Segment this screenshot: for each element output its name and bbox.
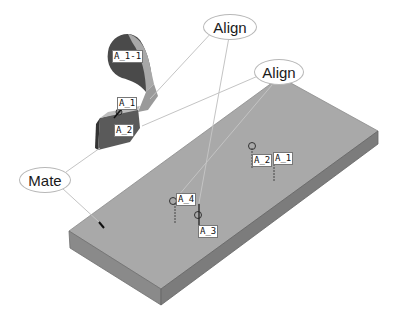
tag-bracket-a1: A_1: [117, 97, 137, 110]
tag-plate-a4: A_4: [176, 193, 196, 206]
tag-bracket-a1-1: A_1-1: [112, 50, 143, 63]
leader-align1-bracket: [150, 30, 214, 99]
mate-callout: Mate: [19, 167, 71, 193]
tag-plate-a3: A_3: [198, 225, 218, 238]
tag-bracket-a2: A_2: [114, 124, 134, 137]
align-callout-1: Align: [203, 14, 257, 40]
tag-plate-a2: A_2: [252, 154, 272, 167]
leader-mate-bracket: [66, 148, 100, 172]
align-callout-2: Align: [254, 59, 304, 85]
tag-plate-a1: A_1: [273, 152, 293, 165]
assembly-diagram: [0, 0, 403, 326]
leader-mate-plate: [62, 188, 99, 222]
